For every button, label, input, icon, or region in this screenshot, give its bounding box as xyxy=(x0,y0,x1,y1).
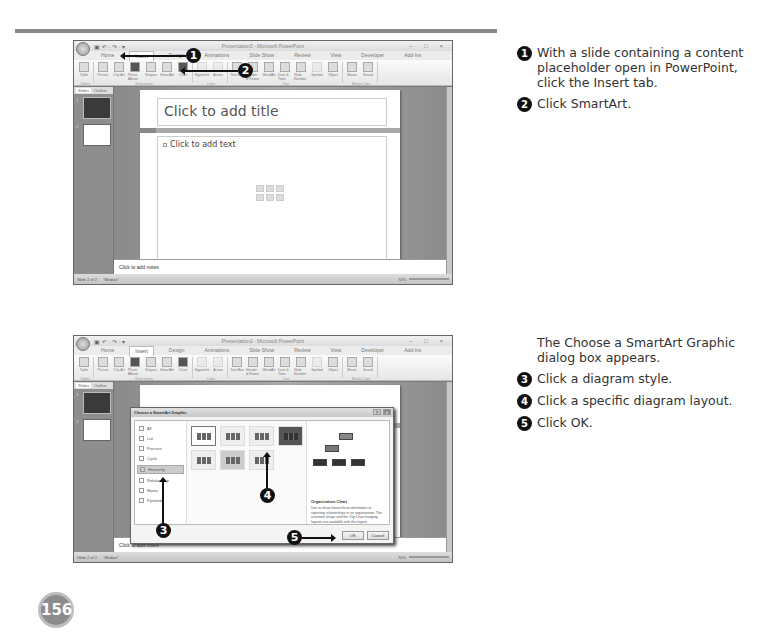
object-button[interactable]: Object xyxy=(326,357,340,378)
zoom-level[interactable]: 70% xyxy=(398,277,406,282)
object-button[interactable]: Object xyxy=(326,62,340,83)
category-process[interactable]: Process xyxy=(137,445,184,452)
insert-table-icon[interactable] xyxy=(256,185,264,192)
text-box-icon xyxy=(232,357,242,367)
tab-slide-show[interactable]: Slide Show xyxy=(244,346,279,355)
hyperlink-button[interactable]: Hyperlink xyxy=(195,357,209,378)
tab-slides[interactable]: Slides xyxy=(76,383,91,388)
date-time-button[interactable]: Date & Time xyxy=(278,62,292,83)
content-placeholder[interactable]: Click to add text xyxy=(157,136,387,264)
symbol-button[interactable]: Symbol xyxy=(310,357,324,378)
quick-access-toolbar[interactable]: ▣ ↶ · ↷ · ▾ xyxy=(94,42,125,52)
tab-insert[interactable]: Insert xyxy=(129,346,154,356)
tab-view[interactable]: View xyxy=(326,51,347,60)
close-button[interactable]: × xyxy=(383,409,391,415)
sound-button[interactable]: Sound xyxy=(361,357,375,378)
category-matrix[interactable]: Matrix xyxy=(137,487,184,494)
clip-art-button[interactable]: Clip Art xyxy=(112,62,126,83)
layout-table-hierarchy[interactable] xyxy=(278,426,303,446)
layout-horizontal-hierarchy[interactable] xyxy=(191,450,216,470)
slide-thumbnail-1[interactable] xyxy=(83,392,111,414)
insert-smartart-icon[interactable] xyxy=(276,185,284,192)
insert-picture-icon[interactable] xyxy=(256,194,264,201)
tab-design[interactable]: Design xyxy=(164,346,190,355)
insert-media-icon[interactable] xyxy=(276,194,284,201)
notes-pane[interactable]: Click to add notes xyxy=(114,259,446,274)
window-controls[interactable]: – □ × xyxy=(409,41,448,51)
tab-add-ins[interactable]: Add-Ins xyxy=(399,51,426,60)
zoom-slider[interactable] xyxy=(409,556,449,558)
chart-button[interactable]: Chart xyxy=(176,357,190,378)
vertical-scrollbar[interactable] xyxy=(446,382,452,552)
title-bar: ▣ ↶ · ↷ · ▾ Presentation3 - Microsoft Po… xyxy=(74,336,452,346)
tab-add-ins[interactable]: Add-Ins xyxy=(399,346,426,355)
zoom-level[interactable]: 70% xyxy=(398,555,406,560)
header-footer-button[interactable]: Header & Footer xyxy=(246,357,260,378)
hyperlink-button[interactable]: Hyperlink xyxy=(195,62,209,83)
tab-review[interactable]: Review xyxy=(289,346,315,355)
tab-developer[interactable]: Developer xyxy=(356,346,389,355)
slide-thumbnail-2[interactable] xyxy=(83,419,111,441)
movie-button[interactable]: Movie xyxy=(345,62,359,83)
step-1: 1 With a slide containing a content plac… xyxy=(517,45,762,90)
category-pyramid[interactable]: Pyramid xyxy=(137,497,184,504)
office-button[interactable] xyxy=(76,337,90,351)
wordart-button[interactable]: WordArt xyxy=(262,357,276,378)
shapes-button[interactable]: Shapes xyxy=(144,357,158,378)
shapes-button[interactable]: Shapes xyxy=(144,62,158,83)
zoom-slider[interactable] xyxy=(409,278,449,280)
sound-button[interactable]: Sound xyxy=(361,62,375,83)
quick-access-toolbar[interactable]: ▣ ↶ · ↷ · ▾ xyxy=(94,337,125,347)
tab-developer[interactable]: Developer xyxy=(356,51,389,60)
slide-number-button[interactable]: Slide Number xyxy=(294,62,308,83)
tab-review[interactable]: Review xyxy=(289,51,315,60)
table-button[interactable]: Table xyxy=(77,357,91,378)
smartart-button[interactable]: SmartArt xyxy=(160,62,174,83)
tab-animations[interactable]: Animations xyxy=(199,51,234,60)
layout-horizontal-labeled-hierarchy[interactable] xyxy=(220,450,245,470)
header-footer-icon xyxy=(248,357,258,367)
tab-outline[interactable]: Outline xyxy=(94,88,107,93)
slide-thumbnail-2[interactable] xyxy=(83,124,111,146)
slide-number-button[interactable]: Slide Number xyxy=(294,357,308,378)
slide-info: Slide 2 of 2 xyxy=(77,555,97,560)
smartart-button[interactable]: SmartArt xyxy=(160,357,174,378)
insert-chart-icon[interactable] xyxy=(266,185,274,192)
symbol-button[interactable]: Symbol xyxy=(310,62,324,83)
movie-button[interactable]: Movie xyxy=(345,357,359,378)
help-button[interactable]: ? xyxy=(373,409,381,415)
picture-button[interactable]: Picture xyxy=(96,357,110,378)
picture-button[interactable]: Picture xyxy=(96,62,110,83)
slide-thumbnail-1[interactable] xyxy=(83,97,111,119)
layout-labeled-hierarchy[interactable] xyxy=(249,426,274,446)
tab-outline[interactable]: Outline xyxy=(94,383,107,388)
category-hierarchy[interactable]: Hierarchy xyxy=(137,465,184,474)
tab-home[interactable]: Home xyxy=(96,346,119,355)
cancel-button[interactable]: Cancel xyxy=(367,531,389,540)
tab-view[interactable]: View xyxy=(326,346,347,355)
photo-album-button[interactable]: Photo Album xyxy=(128,62,142,83)
category-cycle[interactable]: Cycle xyxy=(137,455,184,462)
vertical-scrollbar[interactable] xyxy=(446,87,452,274)
insert-clipart-icon[interactable] xyxy=(266,194,274,201)
text-box-button[interactable]: Text Box xyxy=(230,357,244,378)
tab-slides[interactable]: Slides xyxy=(76,88,91,93)
date-time-button[interactable]: Date & Time xyxy=(278,357,292,378)
photo-album-button[interactable]: Photo Album xyxy=(128,357,142,378)
layout-organization-chart[interactable] xyxy=(191,426,216,446)
category-list-item[interactable]: List xyxy=(137,435,184,442)
layout-hierarchy[interactable] xyxy=(220,426,245,446)
action-button[interactable]: Action xyxy=(211,62,225,83)
tab-home[interactable]: Home xyxy=(96,51,119,60)
table-button[interactable]: Table xyxy=(77,62,91,83)
title-placeholder[interactable]: Click to add title xyxy=(157,98,387,126)
tab-animations[interactable]: Animations xyxy=(199,346,234,355)
wordart-button[interactable]: WordArt xyxy=(262,62,276,83)
tab-slide-show[interactable]: Slide Show xyxy=(244,51,279,60)
action-button[interactable]: Action xyxy=(211,357,225,378)
clip-art-button[interactable]: Clip Art xyxy=(112,357,126,378)
ok-button[interactable]: OK xyxy=(342,531,364,540)
office-button[interactable] xyxy=(76,42,90,56)
window-controls[interactable]: – □ × xyxy=(409,336,448,346)
category-all[interactable]: All xyxy=(137,425,184,432)
